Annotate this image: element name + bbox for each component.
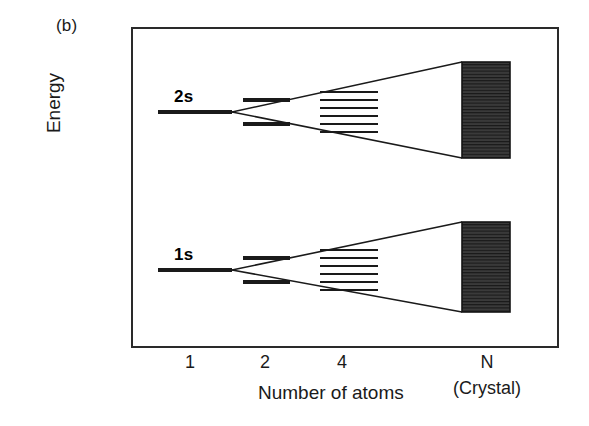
cone-upper-1s (232, 222, 462, 270)
orbital-label-1s: 1s (174, 245, 194, 265)
x-axis-label: Number of atoms (258, 382, 404, 404)
orbital-label-2s: 2s (174, 87, 194, 107)
energy-band-diagram: (b) Energy 2s 1s 1 2 4 N (Crystal) Numbe… (0, 0, 589, 426)
energy-fan-1s (158, 222, 510, 312)
energy-fan-2s (158, 62, 510, 158)
crystal-note-label: (Crystal) (427, 378, 547, 399)
crystal-band-1s (462, 222, 510, 312)
y-axis-label: Energy (43, 33, 65, 173)
cone-lower-1s (232, 270, 462, 312)
x-tick-label-2: 2 (245, 352, 285, 373)
plot-frame: 2s 1s (131, 27, 559, 348)
x-tick-label-4: 4 (322, 352, 362, 373)
x-tick-label-1: 1 (170, 352, 210, 373)
cone-lower-2s (232, 112, 462, 158)
x-tick-label-n: N (467, 352, 507, 373)
cone-upper-2s (232, 62, 462, 112)
plot-canvas (133, 29, 557, 346)
crystal-band-2s (462, 62, 510, 158)
